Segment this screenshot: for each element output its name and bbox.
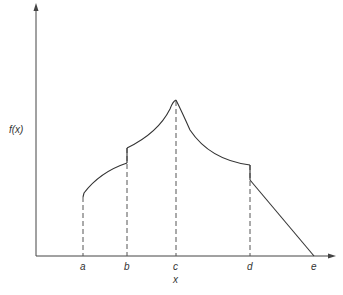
segment-c-d xyxy=(176,100,250,165)
segment-d-e xyxy=(250,180,314,256)
x-axis-label: x xyxy=(173,274,178,285)
segment-a-b xyxy=(83,163,127,197)
tick-label-a: a xyxy=(80,261,86,272)
y-axis-arrow-icon xyxy=(34,3,39,11)
tick-label-c: c xyxy=(173,261,178,272)
y-axis-label: f(x) xyxy=(9,124,23,135)
function-plot xyxy=(0,0,343,295)
tick-label-b: b xyxy=(124,261,130,272)
x-axis-arrow-icon xyxy=(328,254,336,259)
dashed-guides xyxy=(83,101,250,256)
function-curve xyxy=(83,100,314,256)
tick-label-d: d xyxy=(247,261,253,272)
segment-b-c xyxy=(127,100,176,148)
tick-label-e: e xyxy=(311,261,317,272)
